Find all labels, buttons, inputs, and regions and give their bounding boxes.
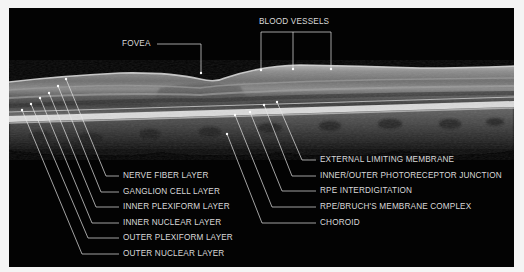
label-outer-nuclear-layer: OUTER NUCLEAR LAYER: [123, 249, 224, 259]
label-inner-plexiform-layer: INNER PLEXIFORM LAYER: [123, 202, 230, 212]
label-rpe-bruchs-complex: RPE/BRUCH'S MEMBRANE COMPLEX: [320, 202, 471, 212]
oct-scan-image: [9, 8, 514, 267]
label-choroid: CHOROID: [320, 218, 360, 228]
label-inner-nuclear-layer: INNER NUCLEAR LAYER: [123, 218, 221, 228]
label-rpe-interdigitation: RPE INTERDIGITATION: [320, 186, 412, 196]
label-nerve-fiber-layer: NERVE FIBER LAYER: [123, 171, 209, 181]
fovea-label: FOVEA: [122, 39, 151, 49]
label-photoreceptor-junction: INNER/OUTER PHOTORECEPTOR JUNCTION: [320, 171, 502, 181]
oct-scan-panel: FOVEA BLOOD VESSELS NERVE FIBER LAYER GA…: [9, 8, 514, 267]
label-ganglion-cell-layer: GANGLION CELL LAYER: [123, 187, 220, 197]
label-outer-plexiform-layer: OUTER PLEXIFORM LAYER: [123, 233, 233, 243]
label-external-limiting-membrane: EXTERNAL LIMITING MEMBRANE: [320, 155, 454, 165]
blood-vessels-label: BLOOD VESSELS: [259, 17, 329, 27]
